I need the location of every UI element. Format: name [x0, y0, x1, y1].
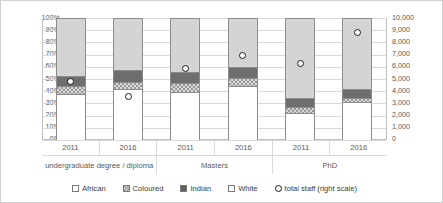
bar-segment-african [114, 19, 142, 70]
category-axis: 2011 2016 2011 2016 2011 2016 undergradu… [42, 140, 387, 174]
legend-label: African [82, 184, 106, 193]
bar-segment-white [171, 92, 199, 140]
stacked-bar[interactable] [228, 18, 258, 140]
right-axis-tick: 8,000 [392, 38, 438, 46]
gridline [42, 67, 386, 68]
stacked-bar-chart: 100% 90% 80% 70% 60% 50% 40% 30% 20% 10%… [0, 0, 443, 203]
x-tick-year: 2016 [330, 140, 387, 156]
bar-segment-indian [114, 70, 142, 82]
x-tick-year: 2016 [100, 140, 158, 156]
plot-area [42, 18, 386, 140]
right-axis-tick: 4,000 [392, 87, 438, 95]
right-axis-tick: 7,000 [392, 50, 438, 58]
stacked-bar[interactable] [285, 18, 315, 140]
total-staff-marker[interactable] [182, 65, 189, 72]
gridline [42, 18, 386, 19]
gridline [42, 42, 386, 43]
right-axis-tick: 9,000 [392, 26, 438, 34]
stacked-bar[interactable] [113, 18, 143, 140]
bar-segment-coloured [229, 78, 257, 85]
bar-segment-indian [229, 67, 257, 78]
square-hatched-icon [123, 185, 130, 192]
x-group-label: undergraduate degree / diploma [42, 156, 157, 174]
x-group-label: Masters [157, 156, 272, 174]
total-staff-marker[interactable] [297, 60, 304, 67]
gridline [42, 91, 386, 92]
legend-item-coloured[interactable]: Coloured [123, 184, 164, 193]
year-row: 2011 2016 2011 2016 2011 2016 [42, 140, 387, 156]
gridline [42, 103, 386, 104]
bar-segment-coloured [114, 82, 142, 89]
legend-label: Coloured [133, 184, 164, 193]
x-tick-year: 2011 [157, 140, 215, 156]
circle-marker-icon [275, 185, 282, 192]
legend-label: Indian [190, 184, 211, 193]
right-axis-line [386, 18, 387, 140]
right-axis-tick: 2,000 [392, 111, 438, 119]
right-axis-tick: 6,000 [392, 62, 438, 70]
bar-segment-coloured [57, 86, 85, 94]
legend-label: total staff (right scale) [285, 184, 357, 193]
stacked-bar[interactable] [170, 18, 200, 140]
gridline [42, 30, 386, 31]
total-staff-marker[interactable] [125, 93, 132, 100]
bar-segment-african [286, 19, 314, 98]
right-axis-tick: 10,000 [392, 14, 438, 22]
bar-segment-indian [171, 72, 199, 83]
x-tick-year: 2011 [273, 140, 331, 156]
x-group-label: PhD [273, 156, 387, 174]
gridline [42, 116, 386, 117]
right-axis-tick: 5,000 [392, 75, 438, 83]
legend-label: White [238, 184, 257, 193]
x-tick-year: 2016 [215, 140, 273, 156]
stacked-bar[interactable] [342, 18, 372, 140]
right-axis-tick: 1,000 [392, 123, 438, 131]
bar-segment-white [343, 102, 371, 140]
legend-item-total-staff[interactable]: total staff (right scale) [275, 184, 357, 193]
gridline [42, 128, 386, 129]
right-axis-tick: 3,000 [392, 99, 438, 107]
bar-segment-indian [343, 89, 371, 97]
group-row: undergraduate degree / diploma Masters P… [42, 156, 387, 174]
legend-item-african[interactable]: African [72, 184, 106, 193]
gridline [42, 79, 386, 80]
gridline [42, 55, 386, 56]
total-staff-marker[interactable] [354, 29, 361, 36]
square-filled-icon [180, 185, 187, 192]
right-axis-tick: 0 [392, 135, 438, 143]
legend-item-white[interactable]: White [228, 184, 257, 193]
bar-segment-white [286, 113, 314, 140]
chart-legend: African Coloured Indian White total staf… [42, 180, 387, 196]
bar-segment-white [229, 86, 257, 140]
bar-segment-african [57, 19, 85, 76]
bar-segment-indian [286, 98, 314, 108]
square-outline-icon [72, 185, 79, 192]
bar-segment-coloured [171, 83, 199, 91]
legend-item-indian[interactable]: Indian [180, 184, 211, 193]
x-tick-year: 2011 [42, 140, 100, 156]
bar-segment-african [229, 19, 257, 67]
square-outline-icon [228, 185, 235, 192]
bar-segment-white [57, 94, 85, 140]
